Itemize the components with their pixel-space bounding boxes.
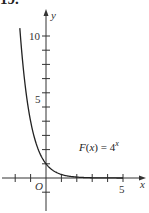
- y-tick-label-10: 10: [29, 30, 41, 42]
- y-axis-label: y: [50, 9, 56, 21]
- x-axis-label: x: [139, 178, 145, 190]
- x-tick-label-5: 5: [119, 183, 125, 195]
- y-axis-arrow-icon: [44, 9, 49, 16]
- function-label: F(x) = 4x: [78, 139, 119, 154]
- origin-label: O: [35, 180, 43, 192]
- function-plot: x y O 5 5 10 F(x) = 4x: [0, 0, 149, 213]
- y-tick-label-5: 5: [35, 93, 41, 105]
- axes: [2, 9, 146, 211]
